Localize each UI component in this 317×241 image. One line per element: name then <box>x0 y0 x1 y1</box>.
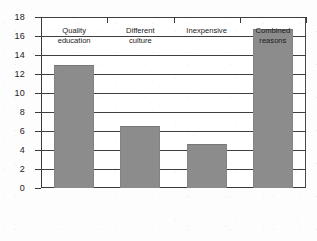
x-axis-label-line: reasons <box>256 36 291 46</box>
y-tick-label: 2 <box>20 164 25 174</box>
y-tick-label: 4 <box>20 145 25 155</box>
y-tick-mark <box>35 150 41 151</box>
y-tick-mark <box>35 169 41 170</box>
y-tick-mark <box>35 36 41 37</box>
y-tick-label: 0 <box>20 183 25 193</box>
x-tick-mark <box>240 17 241 23</box>
x-axis-label: Inexpensive <box>186 26 227 36</box>
y-tick-mark <box>35 55 41 56</box>
y-tick-label: 18 <box>15 12 25 22</box>
y-tick-label: 8 <box>20 107 25 117</box>
y-tick-label: 12 <box>15 69 25 79</box>
y-tick-label: 6 <box>20 126 25 136</box>
bar <box>120 126 160 188</box>
y-tick-mark <box>35 131 41 132</box>
y-tick-mark <box>35 93 41 94</box>
x-axis-label: Combinedreasons <box>256 26 291 46</box>
x-tick-mark <box>174 17 175 23</box>
x-axis-label-line: culture <box>126 36 155 46</box>
y-tick-label: 16 <box>15 31 25 41</box>
x-tick-mark <box>107 17 108 23</box>
y-tick-mark <box>35 74 41 75</box>
x-axis-label-line: Different <box>126 26 155 36</box>
x-axis-label-line: Combined <box>256 26 291 36</box>
y-tick-label: 14 <box>15 50 25 60</box>
x-axis-label-line: Quality <box>58 26 91 36</box>
bar <box>54 65 94 188</box>
bar <box>187 144 227 188</box>
x-tick-mark <box>306 17 307 23</box>
x-axis-label-line: education <box>58 36 91 46</box>
x-axis-label: Differentculture <box>126 26 155 46</box>
x-tick-mark <box>41 17 42 23</box>
x-axis-label-line: Inexpensive <box>186 26 227 36</box>
y-tick-mark <box>35 112 41 113</box>
y-tick-mark <box>35 188 41 189</box>
bar-chart-figure: 024681012141618 QualityeducationDifferen… <box>0 0 317 241</box>
plot-area: 024681012141618 QualityeducationDifferen… <box>41 17 306 188</box>
y-tick-label: 10 <box>15 88 25 98</box>
x-axis-label: Qualityeducation <box>58 26 91 46</box>
bar <box>253 29 293 188</box>
